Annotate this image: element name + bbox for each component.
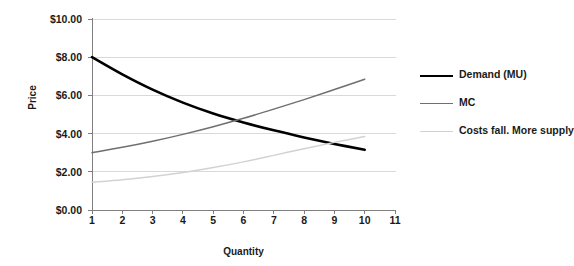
x-tick-label: 3 (138, 215, 168, 226)
legend-line-swatch (420, 103, 453, 104)
x-tick-label: 9 (319, 215, 349, 226)
data-series-group (92, 57, 365, 182)
legend-item-label: Costs fall. More supply (459, 124, 574, 136)
x-tick-label: 8 (289, 215, 319, 226)
x-axis-title: Quantity (92, 246, 395, 257)
x-tick-label: 7 (259, 215, 289, 226)
legend-item[interactable]: MC (420, 90, 573, 118)
axis-lines (88, 18, 396, 210)
series-line (92, 136, 365, 182)
x-tick-label: 10 (350, 215, 380, 226)
x-tick-label: 1 (77, 215, 107, 226)
x-tick-label: 2 (107, 215, 137, 226)
x-tick-label: 5 (198, 215, 228, 226)
legend-item[interactable]: Demand (MU) (420, 62, 573, 90)
legend-line-swatch (420, 131, 453, 132)
legend-line-swatch (420, 75, 453, 77)
x-tick-label: 4 (168, 215, 198, 226)
x-tick-label: 11 (380, 215, 410, 226)
legend-item-label: Demand (MU) (459, 68, 527, 80)
chart-legend: Demand (MU)MCCosts fall. More supply (420, 62, 573, 146)
gridlines (92, 19, 396, 210)
x-tick-label: 6 (229, 215, 259, 226)
series-line (92, 57, 365, 150)
legend-item-label: MC (459, 96, 475, 108)
legend-item[interactable]: Costs fall. More supply (420, 118, 573, 146)
